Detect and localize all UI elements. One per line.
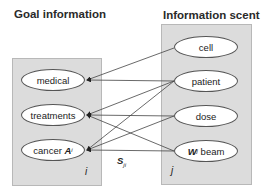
scent-node-cell: cell xyxy=(174,36,238,58)
node-label: treatments xyxy=(31,110,76,121)
edge-patient-medical xyxy=(87,80,174,81)
node-label: patient xyxy=(192,76,221,87)
edges-layer xyxy=(0,0,261,195)
edge-beam-cancer xyxy=(87,150,174,151)
node-label: cell xyxy=(199,42,213,53)
node-label: medical xyxy=(37,75,70,86)
edge-beam-treatments xyxy=(87,115,174,151)
activation-variable: A xyxy=(64,145,71,156)
weight-subscript: j xyxy=(197,148,198,154)
scent-node-patient: patient xyxy=(174,70,238,92)
scent-node-dose: dose xyxy=(174,105,238,127)
edge-cell-medical xyxy=(87,48,174,80)
scent-index-label: j xyxy=(171,165,173,176)
strength-label: Sji xyxy=(117,155,126,168)
node-label: beam xyxy=(201,146,225,157)
activation-subscript: i xyxy=(71,147,72,153)
goal-node-cancer: cancer Ai xyxy=(21,139,85,161)
weight-variable: W xyxy=(188,146,197,157)
goal-node-medical: medical xyxy=(21,69,85,91)
edge-dose-treatments xyxy=(87,115,174,116)
scent-node-beam: Wj beam xyxy=(174,140,238,162)
goal-node-treatments: treatments xyxy=(21,104,85,126)
node-label: dose xyxy=(196,111,217,122)
goal-index-label: i xyxy=(85,166,87,177)
strength-subscript: ji xyxy=(123,162,126,168)
edge-patient-treatments xyxy=(87,81,174,115)
node-label: cancer xyxy=(33,145,62,156)
